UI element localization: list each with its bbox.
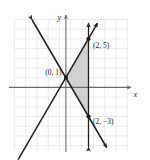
point-2-5 [86,37,90,41]
shaded-region-triangle [66,39,89,117]
point-label-2-5: (2, 5) [93,41,110,50]
point-0-1 [64,76,68,80]
point-label-2-neg3: (2, −3) [93,117,114,126]
point-label-0-1: (0, 1) [45,68,62,77]
x-axis-label: x [133,90,138,99]
graph-canvas: (0, 1) (2, 5) (2, −3) y x [0,0,150,160]
y-axis-label: y [56,13,61,22]
coordinate-plane-figure: (0, 1) (2, 5) (2, −3) y x [0,0,150,160]
point-2-neg3 [86,114,90,118]
